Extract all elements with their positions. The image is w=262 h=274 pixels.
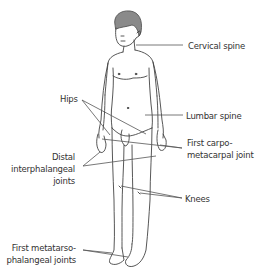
label-cervical-spine: Cervical spine	[188, 41, 245, 51]
label-lumbar-spine: Lumbar spine	[186, 111, 241, 121]
leader-knees	[121, 186, 182, 198]
left-hand	[97, 134, 106, 153]
leader-cmc	[102, 139, 182, 148]
leader-dip	[83, 152, 156, 166]
label-first-carpometacarpal-line1: First carpo-	[187, 138, 232, 148]
label-dip-line3: joints	[53, 176, 75, 186]
left-leg	[109, 128, 124, 264]
label-knees: Knees	[185, 194, 210, 204]
leader-mtp	[83, 250, 128, 257]
label-first-carpometacarpal-line2: metacarpal joint	[187, 150, 254, 160]
label-mtp-line1: First metatarso-	[12, 243, 76, 253]
label-mtp-line2: phalangeal joints	[6, 255, 76, 265]
label-dip-line2: interphalangeal	[11, 164, 75, 174]
right-hand	[157, 130, 166, 150]
head	[116, 28, 141, 46]
right-leg	[125, 128, 152, 267]
label-hips: Hips	[60, 94, 78, 104]
label-dip-line1: Distal	[52, 152, 75, 162]
